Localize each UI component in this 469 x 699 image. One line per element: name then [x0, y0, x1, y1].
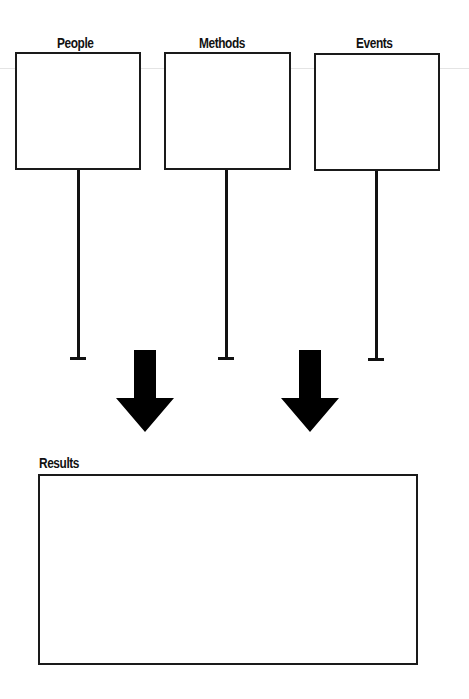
connector-methods	[225, 170, 228, 360]
label-results: Results	[39, 455, 79, 471]
label-events: Events	[356, 35, 392, 51]
down-arrow-icon	[280, 350, 340, 433]
connector-events-cap	[368, 358, 384, 361]
box-people[interactable]	[15, 52, 141, 170]
box-results[interactable]	[38, 474, 418, 665]
box-methods[interactable]	[164, 52, 291, 170]
connector-events	[375, 171, 378, 361]
connector-people	[77, 170, 80, 360]
label-methods: Methods	[199, 35, 245, 51]
down-arrow-icon	[115, 350, 175, 433]
connector-people-cap	[70, 357, 86, 360]
connector-methods-cap	[218, 357, 234, 360]
label-people: People	[57, 35, 93, 51]
box-events[interactable]	[314, 53, 440, 171]
